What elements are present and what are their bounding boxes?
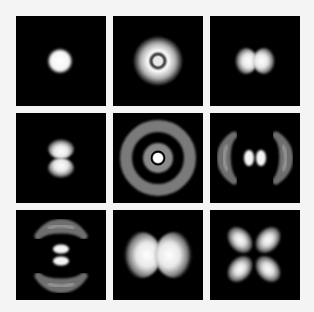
orbital-image [113, 210, 203, 300]
orbital-panel-3d-diagonal [210, 210, 300, 300]
orbital-image [16, 16, 106, 106]
orbital-image [113, 113, 203, 203]
orbital-image [16, 113, 106, 203]
orbital-image [16, 210, 106, 300]
orbital-panel-2p-horizontal [210, 16, 300, 106]
orbital-panel-3p-large-horizontal [113, 210, 203, 300]
orbital-image [210, 113, 300, 203]
orbital-panel-3p-vertical [16, 210, 106, 300]
orbital-image [210, 16, 300, 106]
orbital-panel-1s [16, 16, 106, 106]
orbital-image [113, 16, 203, 106]
orbital-panel-2p-vertical [16, 113, 106, 203]
orbital-panel-3p-horizontal [210, 113, 300, 203]
orbital-image [210, 210, 300, 300]
orbital-panel-3s [113, 113, 203, 203]
orbital-panel-2s [113, 16, 203, 106]
